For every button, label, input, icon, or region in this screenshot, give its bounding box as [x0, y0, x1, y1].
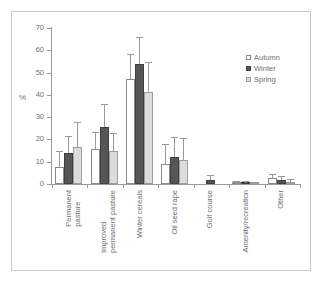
bar-winter [170, 157, 179, 184]
legend-swatch-icon [246, 77, 251, 82]
x-axis-category-label-line: permanent pasture [109, 190, 118, 253]
x-axis-category-label-line: Improved [99, 222, 108, 253]
error-bar-cap [92, 132, 99, 133]
error-bar-cap [233, 181, 240, 182]
error-bar-cap [127, 54, 134, 55]
x-axis-tick [194, 184, 195, 188]
error-bar-cap [74, 122, 81, 123]
error-bar-stem [183, 139, 184, 159]
bar-spring [109, 151, 118, 184]
x-axis-category-label: Winter cereals [136, 190, 145, 238]
error-bar-cap [136, 37, 143, 38]
bar-spring [286, 182, 295, 184]
bar-winter [135, 64, 144, 184]
bar-winter [277, 180, 286, 184]
error-bar-stem [104, 105, 105, 127]
error-bar-stem [210, 176, 211, 180]
x-axis-tick [265, 184, 266, 188]
x-axis-category-label-line: Golf course [205, 190, 214, 228]
x-axis-category-label-line: Other [276, 190, 285, 209]
error-bar-cap [242, 181, 249, 182]
error-bar-cap [162, 144, 169, 145]
bar-autumn [126, 79, 135, 184]
error-bar-stem [139, 38, 140, 64]
bar-autumn [91, 149, 100, 184]
error-bar-stem [113, 134, 114, 151]
bar-autumn [55, 167, 64, 184]
error-bar-cap [287, 179, 294, 180]
error-bar-cap [110, 133, 117, 134]
x-axis-tick [52, 184, 53, 188]
x-axis-category-label: Improvedpermanent pasture [100, 190, 117, 253]
x-axis-category-label-line: Amenity/recreation [241, 190, 250, 253]
error-bar-stem [272, 175, 273, 178]
error-bar-cap [56, 151, 63, 152]
error-bar-cap [65, 136, 72, 137]
bar-autumn [268, 178, 277, 184]
error-bar-stem [148, 63, 149, 92]
error-bar-cap [145, 62, 152, 63]
bar-spring [144, 92, 153, 184]
x-axis-category-label: Permanentpasture [65, 190, 82, 227]
error-bar-stem [59, 152, 60, 168]
bar-winter [100, 127, 109, 184]
error-bar-cap [207, 175, 214, 176]
error-bar-stem [281, 177, 282, 179]
x-axis-tick [123, 184, 124, 188]
error-bar-stem [290, 180, 291, 182]
error-bar-stem [130, 55, 131, 80]
bar-spring [73, 147, 82, 184]
y-axis-tick-label: 70 [18, 24, 44, 32]
error-bar-cap [101, 104, 108, 105]
x-axis-category-label: Oil seed rape [171, 190, 180, 235]
error-bar-stem [245, 182, 246, 183]
bar-group [158, 28, 193, 184]
error-bar-stem [95, 133, 96, 150]
error-bar-stem [165, 145, 166, 164]
legend-swatch-icon [246, 55, 251, 60]
legend-item-spring[interactable]: Spring [246, 74, 280, 85]
error-bar-cap [171, 137, 178, 138]
x-axis-line [51, 184, 301, 185]
bar-winter [206, 180, 215, 184]
bar-spring [179, 160, 188, 185]
chart-figure: % 010203040506070 PermanentpastureImprov… [0, 0, 324, 285]
x-axis-category-label-line: Oil seed rape [170, 190, 179, 235]
error-bar-cap [251, 182, 258, 183]
bar-group [194, 28, 229, 184]
x-axis-tick [300, 184, 301, 188]
bar-group [123, 28, 158, 184]
y-axis-tick-label: 0 [18, 180, 44, 188]
x-axis-category-label-line: Permanent [64, 190, 73, 227]
y-axis-tick-label: 60 [18, 46, 44, 54]
y-axis-tick-label: 10 [18, 158, 44, 166]
chart-legend: AutumnWinterSpring [246, 52, 280, 85]
legend-label: Winter [254, 63, 276, 74]
y-axis-tick-label: 50 [18, 69, 44, 77]
y-axis-tick-label: 40 [18, 91, 44, 99]
x-axis-category-label: Golf course [206, 190, 215, 228]
error-bar-cap [180, 138, 187, 139]
error-bar-stem [174, 138, 175, 157]
legend-item-autumn[interactable]: Autumn [246, 52, 280, 63]
y-axis-tick-label: 30 [18, 113, 44, 121]
x-axis-category-label: Amenity/recreation [242, 190, 251, 253]
bar-group [87, 28, 122, 184]
error-bar-stem [68, 137, 69, 153]
legend-item-winter[interactable]: Winter [246, 63, 280, 74]
y-axis-tick-label: 20 [18, 135, 44, 143]
x-axis-category-label: Other [277, 190, 286, 209]
bar-autumn [161, 164, 170, 184]
x-axis-category-label-line: Winter cereals [135, 190, 144, 238]
legend-label: Autumn [254, 52, 280, 63]
error-bar-cap [278, 176, 285, 177]
legend-label: Spring [254, 74, 276, 85]
x-axis-tick [87, 184, 88, 188]
x-axis-tick [229, 184, 230, 188]
x-axis-category-label-line: pasture [73, 190, 82, 227]
legend-swatch-icon [246, 66, 251, 71]
bar-winter [64, 153, 73, 184]
x-axis-tick [158, 184, 159, 188]
error-bar-cap [269, 174, 276, 175]
bar-group [52, 28, 87, 184]
